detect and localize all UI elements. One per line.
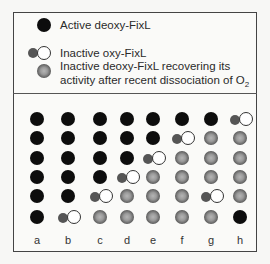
recovering-deoxy-fixl-icon (204, 151, 218, 165)
active-deoxy-fixl-icon (37, 18, 51, 32)
recovering-deoxy-fixl-icon (175, 151, 189, 165)
column-label-a: a (30, 234, 44, 246)
recovering-deoxy-fixl-icon (120, 210, 134, 224)
active-deoxy-fixl-icon (30, 131, 44, 145)
recovering-deoxy-fixl-icon (175, 170, 189, 184)
active-deoxy-fixl-icon (61, 131, 75, 145)
legend-label-oxy: Inactive oxy-FixL (60, 46, 146, 60)
active-deoxy-fixl-icon (146, 131, 160, 145)
active-deoxy-fixl-icon (120, 112, 134, 126)
recovering-deoxy-fixl-icon (175, 210, 189, 224)
inactive-oxy-fixl-icon (239, 112, 253, 126)
legend-divider (13, 93, 257, 94)
active-deoxy-fixl-icon (204, 112, 218, 126)
active-deoxy-fixl-icon (61, 151, 75, 165)
inactive-oxy-fixl-icon (126, 170, 140, 184)
recovering-deoxy-fixl-icon (146, 210, 160, 224)
inactive-oxy-fixl-icon (181, 131, 195, 145)
active-deoxy-fixl-icon (61, 170, 75, 184)
column-label-c: c (93, 234, 107, 246)
column-label-g: g (204, 234, 218, 246)
column-label-b: b (61, 234, 75, 246)
active-deoxy-fixl-icon (61, 189, 75, 203)
active-deoxy-fixl-icon (30, 189, 44, 203)
recovering-deoxy-fixl-icon (204, 170, 218, 184)
recovering-deoxy-fixl-icon (146, 189, 160, 203)
active-deoxy-fixl-icon (61, 112, 75, 126)
active-deoxy-fixl-icon (120, 131, 134, 145)
legend-label-recover-line2: activity after recent dissociation of O2 (60, 73, 249, 92)
recovering-deoxy-fixl-icon (146, 170, 160, 184)
legend-label-recover-line1: Inactive deoxy-FixL recovering its (60, 59, 230, 73)
recovering-deoxy-fixl-icon (175, 189, 189, 203)
column-label-e: e (146, 234, 160, 246)
recovering-deoxy-fixl-icon (204, 131, 218, 145)
inactive-oxy-fixl-icon (99, 189, 113, 203)
active-deoxy-fixl-icon (233, 210, 247, 224)
active-deoxy-fixl-icon (93, 112, 107, 126)
active-deoxy-fixl-icon (175, 112, 189, 126)
active-deoxy-fixl-icon (93, 170, 107, 184)
active-deoxy-fixl-icon (30, 210, 44, 224)
recovering-deoxy-fixl-icon (233, 189, 247, 203)
active-deoxy-fixl-icon (120, 151, 134, 165)
active-deoxy-fixl-icon (146, 112, 160, 126)
recovering-deoxy-fixl-icon (233, 131, 247, 145)
recovering-deoxy-fixl-icon (37, 64, 51, 78)
active-deoxy-fixl-icon (30, 151, 44, 165)
active-deoxy-fixl-icon (93, 131, 107, 145)
recovering-deoxy-fixl-icon (233, 151, 247, 165)
column-label-f: f (175, 234, 189, 246)
column-label-d: d (120, 234, 134, 246)
recovering-deoxy-fixl-icon (120, 189, 134, 203)
inactive-oxy-fixl-icon (67, 210, 81, 224)
inactive-oxy-fixl-icon (210, 189, 224, 203)
recovering-deoxy-fixl-icon (233, 170, 247, 184)
active-deoxy-fixl-icon (30, 170, 44, 184)
recovering-deoxy-fixl-icon (204, 210, 218, 224)
recovering-deoxy-fixl-icon (93, 210, 107, 224)
legend-label-active: Active deoxy-FixL (60, 18, 151, 32)
inactive-oxy-fixl-icon (152, 151, 166, 165)
inactive-oxy-fixl-icon (37, 46, 51, 60)
active-deoxy-fixl-icon (30, 112, 44, 126)
active-deoxy-fixl-icon (93, 151, 107, 165)
column-label-h: h (233, 234, 247, 246)
